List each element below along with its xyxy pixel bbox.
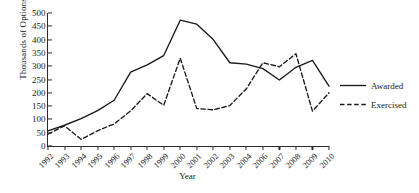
x-axis-tick-mark [229,146,230,150]
x-axis-tick-label: 2008 [284,151,303,170]
x-axis-tick-mark [262,146,263,150]
x-axis-tick-mark [163,146,164,150]
x-axis-tick-mark [81,146,82,150]
y-axis-tick: 450 [32,21,48,31]
x-axis-tick: 2001 [196,146,197,150]
y-axis-tick: 200 [32,88,48,98]
x-axis-tick-mark [295,146,296,150]
line-chart-figure: Thousands of Options 0501001502002503003… [0,0,419,193]
legend-swatch-solid [340,81,366,90]
x-axis-tick-label: 2001 [185,151,204,170]
x-axis-tick-mark [246,146,247,150]
y-axis-tick-label: 500 [32,8,48,18]
x-axis-tick: 2002 [213,146,214,150]
y-axis-tick: 500 [32,8,48,18]
x-axis-tick-label: 2007 [267,151,286,170]
x-axis-tick: 2010 [328,146,329,150]
y-axis-tick-label: 150 [32,101,48,111]
x-axis-tick: 2009 [312,146,313,150]
legend-label: Exercised [371,100,406,110]
x-axis-tick-label: 2002 [201,151,220,170]
series-line-awarded [48,20,329,131]
x-axis-tick-label: 2009 [300,151,319,170]
series-line-exercised [48,54,329,140]
x-axis-tick-mark [328,146,329,150]
y-axis-tick-label: 50 [37,128,49,138]
x-axis-tick-label: 1995 [86,151,105,170]
y-axis-tick-mark [48,79,52,80]
x-axis-tick-mark [312,146,313,150]
legend-label: Awarded [371,81,403,91]
x-axis-tick: 2006 [262,146,263,150]
x-axis-tick-mark [114,146,115,150]
x-axis-tick: 1992 [47,146,48,150]
legend-swatch-dashed [340,100,366,109]
x-axis-tick: 1999 [163,146,164,150]
x-axis-tick-mark [147,146,148,150]
x-axis-tick-label: 1994 [69,151,88,170]
y-axis-tick-mark [48,52,52,53]
x-axis-tick: 1995 [97,146,98,150]
y-axis-tick-mark [48,106,52,107]
y-axis-tick: 150 [32,101,48,111]
x-axis-tick: 1996 [114,146,115,150]
x-axis-tick-label: 1996 [102,151,121,170]
x-axis-tick: 1993 [64,146,65,150]
y-axis-title: Thousands of Options [18,0,28,109]
y-axis-tick-label: 250 [32,75,48,85]
y-axis-tick: 50 [37,128,49,138]
y-axis-tick-mark [48,12,52,13]
x-axis-title: Year [47,171,328,181]
y-axis-tick: 100 [32,114,48,124]
y-axis-tick-label: 450 [32,21,48,31]
y-axis-tick-mark [48,39,52,40]
y-axis-tick-mark [48,66,52,67]
legend-item-awarded[interactable]: Awarded [340,76,406,95]
x-axis-tick: 2003 [229,146,230,150]
x-axis-tick: 2004 [246,146,247,150]
y-axis-tick-label: 400 [32,35,48,45]
series-lines [48,13,329,146]
y-axis-tick: 350 [32,48,48,58]
x-axis-tick-label: 2010 [317,151,336,170]
x-axis-tick: 2007 [279,146,280,150]
y-axis-tick-mark [48,119,52,120]
x-axis-tick-label: 1999 [152,151,171,170]
y-axis-tick-label: 350 [32,48,48,58]
y-axis-tick-label: 100 [32,114,48,124]
plot-area: 0501001502002503003504004505001992199319… [47,13,329,147]
x-axis-tick-label: 2006 [251,151,270,170]
y-axis-tick-mark [48,92,52,93]
x-axis-tick: 2000 [180,146,181,150]
legend-item-exercised[interactable]: Exercised [340,95,406,114]
x-axis-tick-label: 1998 [135,151,154,170]
x-axis-tick-label: 1997 [119,151,138,170]
x-axis-tick-mark [213,146,214,150]
y-axis-tick: 400 [32,35,48,45]
x-axis-tick-mark [47,146,48,150]
y-axis-tick-label: 200 [32,88,48,98]
y-axis-tick-label: 300 [32,61,48,71]
chart-legend: AwardedExercised [340,76,406,114]
y-axis-tick: 250 [32,75,48,85]
x-axis-tick: 1994 [81,146,82,150]
x-axis-tick-label: 2004 [234,151,253,170]
x-axis-tick-mark [180,146,181,150]
y-axis-tick: 300 [32,61,48,71]
y-axis-tick-mark [48,26,52,27]
x-axis-tick: 2008 [295,146,296,150]
x-axis-tick-mark [196,146,197,150]
y-axis-tick-mark [48,132,52,133]
x-axis-tick-label: 2003 [218,151,237,170]
x-axis-tick-mark [64,146,65,150]
x-axis-tick-mark [130,146,131,150]
x-axis-tick-label: 1993 [52,151,71,170]
x-axis-tick: 1997 [130,146,131,150]
x-axis-tick-label: 2000 [168,151,187,170]
x-axis-tick: 1998 [147,146,148,150]
x-axis-tick-mark [97,146,98,150]
x-axis-tick-label: 1992 [36,151,55,170]
x-axis-tick-mark [279,146,280,150]
